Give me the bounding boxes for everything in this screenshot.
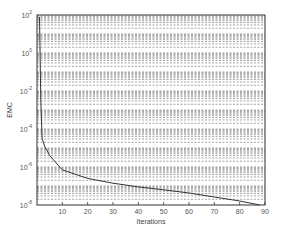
x-tick-label: 60 bbox=[185, 208, 193, 215]
y-axis-ticks: 10210010-210-410-610-8 bbox=[20, 9, 32, 209]
y-tick-label: 100 bbox=[21, 47, 32, 57]
y-tick-label: 10-2 bbox=[20, 85, 32, 95]
x-tick-label: 70 bbox=[210, 208, 218, 215]
x-tick-label: 80 bbox=[236, 208, 244, 215]
y-tick-label: 102 bbox=[21, 9, 32, 19]
x-axis-label: Iterations bbox=[137, 218, 166, 225]
x-tick-label: 40 bbox=[134, 208, 142, 215]
x-tick-label: 10 bbox=[58, 208, 66, 215]
y-tick-label: 10-8 bbox=[20, 199, 32, 209]
x-tick-label: 20 bbox=[84, 208, 92, 215]
y-tick-label: 10-4 bbox=[20, 123, 32, 133]
y-axis-label: EMC bbox=[6, 102, 13, 118]
emc-line-chart: 102030405060708090 10210010-210-410-610-… bbox=[0, 0, 281, 239]
x-tick-label: 30 bbox=[109, 208, 117, 215]
x-tick-label: 50 bbox=[160, 208, 168, 215]
grid-lines bbox=[37, 16, 265, 199]
x-tick-label: 90 bbox=[261, 208, 269, 215]
y-tick-label: 10-6 bbox=[20, 161, 32, 171]
x-axis-ticks: 102030405060708090 bbox=[58, 202, 269, 215]
